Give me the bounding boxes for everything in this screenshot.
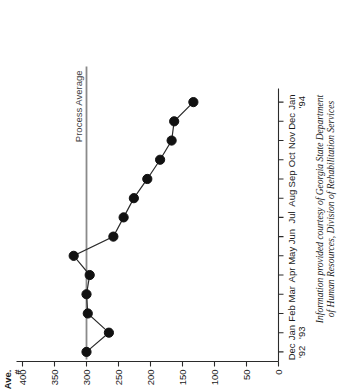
value-axis-name-line2: #	[11, 368, 22, 374]
data-point-marker[interactable]	[69, 251, 78, 260]
time-tick-label: Jan	[285, 94, 296, 109]
time-tick-label: Jan	[285, 325, 296, 340]
caption-line-2: of Human Resources, Division of Rehabili…	[325, 100, 335, 317]
time-tick-label: Dec	[285, 343, 296, 360]
data-point-marker[interactable]	[81, 289, 90, 298]
chart-figure: 050100150200250300350400Ave.#Dec'92Jan'9…	[0, 0, 346, 389]
time-tick-label: Oct	[285, 152, 296, 167]
value-tick-label: 0	[272, 369, 283, 374]
line-chart-plot: 050100150200250300350400Ave.#Dec'92Jan'9…	[0, 0, 346, 389]
time-tick-label: Sep	[285, 170, 296, 187]
time-tick-label: Dec	[285, 112, 296, 129]
value-tick-label: 50	[240, 369, 251, 380]
time-tick-label: Mar	[285, 286, 296, 302]
value-tick-label: 100	[208, 369, 219, 385]
value-axis-name-line1: Ave.	[1, 369, 12, 389]
data-point-marker[interactable]	[129, 193, 138, 202]
data-point-marker[interactable]	[108, 232, 117, 241]
data-point-marker[interactable]	[188, 97, 197, 106]
time-tick-label-year: '92	[295, 345, 306, 357]
value-tick-label: 200	[144, 369, 155, 385]
value-tick-label: 150	[176, 369, 187, 385]
time-tick-label: Jul	[285, 211, 296, 223]
time-tick-label: May	[285, 246, 296, 264]
process-average-label: Process Average	[72, 70, 83, 142]
data-point-marker[interactable]	[167, 135, 176, 144]
value-tick-label: 250	[112, 369, 123, 385]
caption-line-1: Information provided courtesy of Georgia…	[314, 94, 324, 324]
data-point-marker[interactable]	[155, 155, 164, 164]
time-tick-label-year: '93	[295, 326, 306, 338]
data-point-marker[interactable]	[81, 347, 90, 356]
time-tick-label: Apr	[285, 267, 296, 282]
data-point-marker[interactable]	[119, 212, 128, 221]
time-tick-label: Jun	[285, 228, 296, 243]
time-tick-label: Feb	[285, 305, 296, 321]
data-point-marker[interactable]	[169, 116, 178, 125]
data-point-marker[interactable]	[142, 174, 151, 183]
time-tick-label: Nov	[285, 131, 296, 148]
value-tick-label: 350	[48, 369, 59, 385]
rotated-chart-stage: 050100150200250300350400Ave.#Dec'92Jan'9…	[0, 0, 346, 389]
time-tick-label: Aug	[285, 189, 296, 206]
value-tick-label: 300	[80, 369, 91, 385]
data-point-marker[interactable]	[83, 308, 92, 317]
time-tick-label-year: '94	[295, 95, 306, 107]
